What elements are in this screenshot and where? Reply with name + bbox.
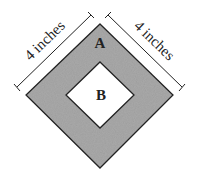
dimension-label-right: 4 inches (131, 17, 178, 63)
label-b: B (96, 87, 106, 103)
square-diagram: 4 inches 4 inches A B (0, 0, 199, 183)
label-a: A (95, 35, 106, 51)
dimension-label-left: 4 inches (21, 17, 68, 63)
